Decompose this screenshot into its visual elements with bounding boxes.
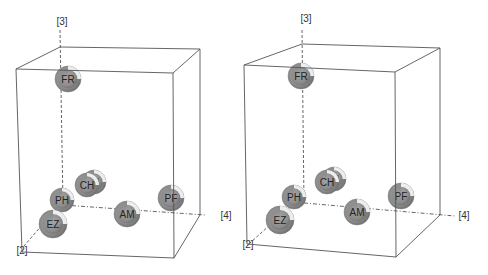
data-point-ph: PH <box>50 188 74 212</box>
box-edge-front-top <box>244 65 395 72</box>
chart-canvas: [3][4][2]FRINCHPFPHAMEZ [3][4][2]FRINCHP… <box>0 0 488 275</box>
point-label: PH <box>287 192 301 203</box>
axis-4-label: [4] <box>220 210 231 221</box>
scatter-panel-left: [3][4][2]FRINCHPFPHAMEZ <box>16 16 232 258</box>
box-edge-front-left <box>244 65 247 244</box>
box-edge-bottom-right <box>396 215 440 257</box>
scatter-panel-right: [3][4][2]FRINCHPFPHAMEZ <box>242 13 469 257</box>
box-edge-front-left <box>16 69 22 252</box>
box-edge-top-left <box>16 47 60 69</box>
data-point-am: AM <box>344 199 370 225</box>
data-point-ez: EZ <box>266 206 294 234</box>
box-edge-back-top <box>302 44 440 48</box>
box-edge-top-right <box>173 49 200 73</box>
box-edge-front-right <box>395 72 396 257</box>
data-point-am: AM <box>114 201 140 227</box>
box-edge-bottom-right <box>174 215 200 258</box>
data-point-ez: EZ <box>39 210 67 238</box>
axis-3-label: [3] <box>56 16 67 27</box>
data-point-pf: PF <box>388 183 414 209</box>
axis-3-line <box>302 30 304 203</box>
axis-4-label: [4] <box>458 210 469 221</box>
box-edge-back-top <box>60 47 200 49</box>
point-label: AM <box>120 209 135 220</box>
data-point-pf: PF <box>158 185 184 211</box>
box-edge-front-top <box>16 69 173 73</box>
data-point-ph: PH <box>282 185 306 209</box>
point-label: EZ <box>274 215 287 226</box>
axis-4-line <box>304 203 455 216</box>
point-label: CH <box>80 180 94 191</box>
point-label: PF <box>165 193 178 204</box>
point-label: FR <box>294 71 307 82</box>
point-label: AM <box>350 207 365 218</box>
point-label: EZ <box>47 219 60 230</box>
axis-3-line <box>60 30 63 205</box>
box-edge-top-right <box>395 48 440 72</box>
box-edge-front-bottom <box>247 244 396 257</box>
box-edge-front-right <box>173 73 174 258</box>
point-label: PF <box>395 191 408 202</box>
box-edge-front-bottom <box>22 252 174 258</box>
point-label: PH <box>55 195 69 206</box>
point-label: CH <box>320 177 334 188</box>
data-point-ch: CH <box>315 170 339 194</box>
box-edge-top-left <box>244 44 302 65</box>
point-label: FR <box>61 74 74 85</box>
data-point-ch: CH <box>75 173 99 197</box>
axis-3-label: [3] <box>300 13 311 24</box>
